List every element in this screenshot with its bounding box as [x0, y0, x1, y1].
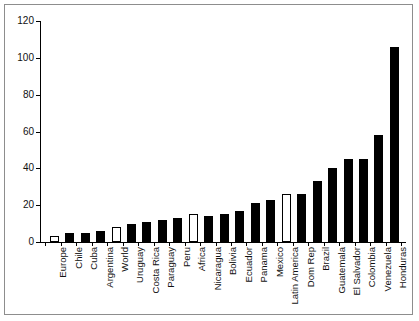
y-tick-label: 0 — [28, 237, 34, 247]
x-tick-label: Ecuador — [244, 247, 254, 282]
y-tick-mark — [36, 242, 40, 243]
x-tick-label: World — [120, 247, 130, 272]
x-tick-mark — [107, 242, 108, 246]
bar — [282, 194, 291, 242]
x-tick-mark — [216, 242, 217, 246]
x-tick-label: Honduras — [398, 247, 408, 288]
y-tick-mark — [36, 95, 40, 96]
bar — [313, 181, 322, 242]
x-tick-mark — [386, 242, 387, 246]
bar — [112, 227, 121, 242]
bar — [251, 203, 260, 242]
x-tick-mark — [277, 242, 278, 246]
x-tick-mark — [138, 242, 139, 246]
x-tick-mark — [185, 242, 186, 246]
x-tick-label: Uruguay — [135, 247, 145, 283]
x-tick-label: Cuba — [89, 247, 99, 270]
x-tick-mark — [324, 242, 325, 246]
bar — [390, 47, 399, 242]
x-tick-label: Venezuela — [383, 247, 393, 291]
bar — [344, 159, 353, 242]
x-tick-label: Mexico — [275, 247, 285, 277]
x-tick-mark — [370, 242, 371, 246]
bar — [189, 214, 198, 242]
x-tick-mark — [169, 242, 170, 246]
y-tick-mark — [36, 205, 40, 206]
bar — [142, 222, 151, 242]
y-tick-mark — [36, 168, 40, 169]
x-tick-label: Paraguay — [166, 247, 176, 288]
x-tick-mark — [262, 242, 263, 246]
x-tick-mark — [231, 242, 232, 246]
x-tick-label: Colombia — [367, 247, 377, 287]
bar — [127, 224, 136, 242]
y-tick-label: 20 — [23, 200, 34, 210]
bar — [65, 233, 74, 242]
x-tick-label: Dom Rep — [306, 247, 316, 287]
bar — [235, 211, 244, 242]
y-tick-mark — [36, 21, 40, 22]
x-tick-mark — [45, 242, 46, 246]
chart-figure: 020406080100120 EuropeChileCubaArgentina… — [4, 4, 413, 315]
x-tick-label: Panama — [259, 247, 269, 282]
y-tick-label: 60 — [23, 127, 34, 137]
x-tick-mark — [123, 242, 124, 246]
x-tick-mark — [339, 242, 340, 246]
bar — [81, 233, 90, 242]
x-tick-mark — [154, 242, 155, 246]
bar — [359, 159, 368, 242]
x-tick-label: Brazil — [321, 247, 331, 271]
y-tick-mark — [36, 58, 40, 59]
y-tick-label: 40 — [23, 163, 34, 173]
bar — [173, 218, 182, 242]
x-tick-label: Latin America — [290, 247, 300, 305]
y-tick-mark — [36, 132, 40, 133]
x-tick-label: Argentina — [105, 247, 115, 288]
x-tick-mark — [246, 242, 247, 246]
bar — [266, 200, 275, 242]
y-tick-label: 80 — [23, 90, 34, 100]
x-tick-label: Europe — [58, 247, 68, 278]
x-tick-mark — [293, 242, 294, 246]
x-tick-mark — [200, 242, 201, 246]
x-tick-mark — [355, 242, 356, 246]
x-tick-mark — [308, 242, 309, 246]
x-tick-label: Chile — [74, 247, 84, 269]
x-tick-label: Costa Rica — [151, 247, 161, 293]
plot-area: 020406080100120 — [40, 21, 405, 242]
bar-series — [41, 21, 406, 242]
x-tick-mark — [401, 242, 402, 246]
x-axis-labels: EuropeChileCubaArgentinaWorldUruguayCost… — [41, 247, 406, 317]
bar — [96, 231, 105, 242]
bar — [328, 168, 337, 242]
y-tick-label: 120 — [17, 16, 34, 26]
x-tick-label: El Salvador — [352, 247, 362, 296]
bar — [158, 220, 167, 242]
y-tick-label: 100 — [17, 53, 34, 63]
bar — [220, 214, 229, 242]
x-tick-mark — [76, 242, 77, 246]
x-tick-mark — [92, 242, 93, 246]
x-tick-label: Bolivia — [228, 247, 238, 275]
x-tick-label: Guatemala — [337, 247, 347, 293]
bar — [50, 236, 59, 242]
x-tick-label: Nicaragua — [213, 247, 223, 290]
x-tick-label: Africa — [197, 247, 207, 271]
x-tick-label: Peru — [182, 247, 192, 267]
x-tick-mark — [61, 242, 62, 246]
bar — [297, 194, 306, 242]
bar — [204, 216, 213, 242]
x-axis-line — [40, 242, 406, 243]
bar — [374, 135, 383, 242]
